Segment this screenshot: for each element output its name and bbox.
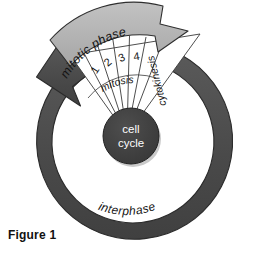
interphase-label: interphase (97, 199, 158, 218)
cell-cycle-figure: interphase 1 2 3 4 (0, 0, 262, 256)
interphase-label-text: interphase (97, 199, 158, 218)
center-circle (103, 108, 159, 164)
center-label-line1: cell (122, 123, 139, 135)
center-label-line2: cycle (118, 137, 144, 149)
cell-cycle-diagram: interphase 1 2 3 4 (0, 0, 262, 256)
figure-caption: Figure 1 (8, 228, 56, 242)
center-circle-group: cell cycle (103, 108, 161, 167)
